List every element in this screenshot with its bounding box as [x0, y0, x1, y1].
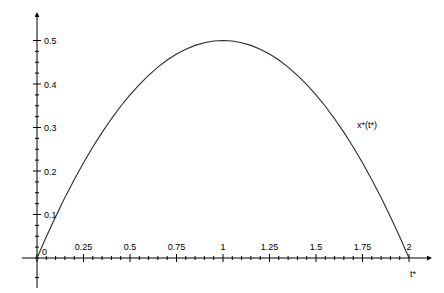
x-tick-label: 1.25: [261, 242, 279, 252]
x-axis-title: t*: [410, 269, 417, 279]
y-tick-label: 0.3: [44, 123, 57, 133]
x-tick-label: 1.75: [354, 242, 372, 252]
plot-area: 0.250.50.7511.251.51.752 0.10.20.30.40.5…: [0, 0, 444, 293]
y-tick-label: 0.4: [44, 80, 57, 90]
x-tick-label: 2: [406, 242, 411, 252]
x-axis-tick-labels: 0.250.50.7511.251.51.752: [75, 242, 412, 252]
curve-x-star-of-t-star: [37, 41, 409, 259]
chart-canvas: 0.250.50.7511.251.51.752 0.10.20.30.40.5…: [0, 0, 444, 293]
origin-tick-label: 0: [42, 247, 47, 257]
y-tick-label: 0.2: [44, 167, 57, 177]
x-tick-label: 1: [220, 242, 225, 252]
curve-series-label: x*(t*): [357, 120, 377, 130]
x-tick-label: 0.75: [168, 242, 186, 252]
x-tick-label: 0.25: [75, 242, 93, 252]
y-tick-label: 0.5: [44, 36, 57, 46]
x-axis-ticks: [37, 254, 409, 262]
y-axis-tick-labels: 0.10.20.30.40.5: [44, 36, 57, 220]
x-tick-label: 1.5: [310, 242, 323, 252]
x-tick-label: 0.5: [124, 242, 137, 252]
